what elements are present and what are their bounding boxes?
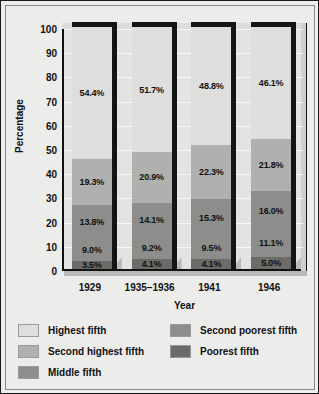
chart-legend: Highest fifthSecond highest fifthMiddle … xyxy=(18,319,306,381)
bar-segment[interactable]: 4.1% xyxy=(132,259,172,269)
legend-swatch xyxy=(18,324,39,337)
bar-column[interactable]: 4.1%9.2%14.1%20.9%51.7% xyxy=(132,27,172,269)
bar-segment[interactable]: 9.2% xyxy=(132,237,172,259)
y-axis-tick-label: 10 xyxy=(46,241,57,252)
bar-segment-label: 4.1% xyxy=(202,259,222,269)
bar-segment-label: 5.0% xyxy=(261,258,281,268)
bar-top-cap xyxy=(251,22,296,27)
bar-column[interactable]: 3.5%9.0%13.8%19.3%54.4% xyxy=(72,27,112,269)
bar-segment[interactable]: 54.4% xyxy=(72,27,112,159)
bar-segment[interactable]: 19.3% xyxy=(72,159,112,206)
bar-stack: 3.5%9.0%13.8%19.3%54.4% xyxy=(72,27,112,269)
bar-segment[interactable]: 16.0% xyxy=(251,191,291,230)
bar-segment-label: 54.4% xyxy=(80,88,105,98)
bar-segment-label: 9.5% xyxy=(202,243,222,253)
bar-segment-label: 46.1% xyxy=(259,78,284,88)
bar-segment-label: 14.1% xyxy=(139,215,164,225)
bar-top-cap xyxy=(191,22,236,27)
bar-segment[interactable]: 11.1% xyxy=(251,230,291,257)
bar-segment[interactable]: 9.5% xyxy=(191,236,231,259)
bar-segment[interactable]: 15.3% xyxy=(191,199,231,236)
bar-column[interactable]: 4.1%9.5%15.3%22.3%48.8% xyxy=(191,27,231,269)
bar-side-face xyxy=(112,27,117,269)
bar-segment-label: 15.3% xyxy=(199,213,224,223)
y-axis-tick-label: 0 xyxy=(51,266,57,277)
bar-side-face xyxy=(231,27,236,269)
y-axis-tick-label: 50 xyxy=(46,145,57,156)
y-axis-tick-label: 40 xyxy=(46,169,57,180)
bar-segment[interactable]: 22.3% xyxy=(191,145,231,199)
plot-wrapper: 3.5%9.0%13.8%19.3%54.4%4.1%9.2%14.1%20.9… xyxy=(62,29,307,277)
y-axis-tick-label: 80 xyxy=(46,72,57,83)
legend-swatch xyxy=(18,366,39,379)
legend-label: Second poorest fifth xyxy=(200,325,297,336)
legend-item[interactable]: Highest fifth xyxy=(18,324,106,337)
y-axis-tick-label: 60 xyxy=(46,120,57,131)
legend-swatch xyxy=(170,324,191,337)
bar-segment[interactable]: 20.9% xyxy=(132,152,172,203)
y-axis-tick-label: 100 xyxy=(40,24,57,35)
y-axis-title: Percentage xyxy=(14,99,25,153)
plot-area: 3.5%9.0%13.8%19.3%54.4%4.1%9.2%14.1%20.9… xyxy=(62,29,301,271)
legend-label: Second highest fifth xyxy=(48,346,144,357)
bar-segment-label: 20.9% xyxy=(139,172,164,182)
chart-inner-frame: Percentage 3.5%9.0%13.8%19.3%54.4%4.1%9.… xyxy=(5,5,315,390)
bar-segment-label: 4.1% xyxy=(142,259,162,269)
bar-segment-label: 22.3% xyxy=(199,167,224,177)
bar-segment-label: 48.8% xyxy=(199,81,224,91)
legend-label: Poorest fifth xyxy=(200,346,259,357)
chart-figure: Percentage 3.5%9.0%13.8%19.3%54.4%4.1%9.… xyxy=(0,0,319,394)
bar-segment-label: 51.7% xyxy=(139,85,164,95)
bar-segment-label: 9.0% xyxy=(82,245,102,255)
x-axis-tick-label: 1935–1936 xyxy=(125,282,175,293)
bar-segment-label: 21.8% xyxy=(259,160,284,170)
bar-stack: 4.1%9.5%15.3%22.3%48.8% xyxy=(191,27,231,269)
bar-segment-label: 19.3% xyxy=(80,177,105,187)
bar-segment[interactable]: 14.1% xyxy=(132,203,172,237)
bar-segment[interactable]: 3.5% xyxy=(72,261,112,269)
bar-segment[interactable]: 48.8% xyxy=(191,27,231,145)
bar-side-face xyxy=(291,27,296,269)
bar-segment[interactable]: 9.0% xyxy=(72,239,112,261)
y-axis-tick-label: 30 xyxy=(46,193,57,204)
plot-floor-shadow xyxy=(64,271,307,276)
bar-segment-label: 13.8% xyxy=(80,217,105,227)
y-axis-tick-label: 20 xyxy=(46,217,57,228)
legend-item[interactable]: Second highest fifth xyxy=(18,345,144,358)
legend-label: Highest fifth xyxy=(48,325,106,336)
bar-side-face xyxy=(172,27,177,269)
legend-label: Middle fifth xyxy=(48,367,101,378)
bar-segment[interactable]: 46.1% xyxy=(251,27,291,139)
bar-segment[interactable]: 21.8% xyxy=(251,139,291,192)
bar-stack: 4.1%9.2%14.1%20.9%51.7% xyxy=(132,27,172,269)
legend-item[interactable]: Poorest fifth xyxy=(170,345,259,358)
bar-segment-label: 11.1% xyxy=(259,238,283,248)
y-axis-tick-label: 70 xyxy=(46,96,57,107)
bar-segment[interactable]: 51.7% xyxy=(132,27,172,152)
legend-swatch xyxy=(170,345,191,358)
legend-item[interactable]: Second poorest fifth xyxy=(170,324,297,337)
bar-stack: 5.0%11.1%16.0%21.8%46.1% xyxy=(251,27,291,269)
y-axis-tick-label: 90 xyxy=(46,48,57,59)
bar-segment-label: 9.2% xyxy=(142,243,162,253)
bar-segment-label: 3.5% xyxy=(82,260,102,270)
bar-column[interactable]: 5.0%11.1%16.0%21.8%46.1% xyxy=(251,27,291,269)
bar-segment[interactable]: 5.0% xyxy=(251,257,291,269)
bar-top-cap xyxy=(132,22,177,27)
x-axis-tick-label: 1941 xyxy=(198,282,220,293)
plot-wall-right xyxy=(301,23,307,271)
legend-item[interactable]: Middle fifth xyxy=(18,366,101,379)
legend-swatch xyxy=(18,345,39,358)
bar-top-cap xyxy=(72,22,117,27)
bar-segment[interactable]: 4.1% xyxy=(191,259,231,269)
x-axis-tick-label: 1929 xyxy=(79,282,101,293)
bar-segment-label: 16.0% xyxy=(259,206,284,216)
x-axis-title: Year xyxy=(62,300,307,311)
bar-segment[interactable]: 13.8% xyxy=(72,205,112,238)
x-axis-tick-label: 1946 xyxy=(258,282,280,293)
